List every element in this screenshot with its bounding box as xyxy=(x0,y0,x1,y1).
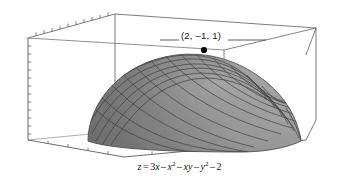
equation-caption: z=3x–x2–xy–y2–2 xyxy=(0,160,359,173)
plot-canvas xyxy=(0,0,359,185)
box-edge-right-wall-top xyxy=(224,28,316,50)
box-edge-top-right xyxy=(306,28,316,55)
maximum-point-marker xyxy=(201,47,207,53)
surface-dome xyxy=(86,50,301,155)
box-edge-floor-right-back xyxy=(306,120,316,140)
equation-term1-variable: x xyxy=(155,161,159,172)
box-edge-top-back xyxy=(115,14,316,28)
equation-equals: = xyxy=(142,161,151,172)
box-edge-top-back-left xyxy=(28,14,115,38)
axis-ticks-top-back-left xyxy=(36,13,108,36)
axis-ticks-z xyxy=(28,46,31,134)
surface-plot-figure: (2, –1, 1) z=3x–x2–xy–y2–2 xyxy=(0,0,359,185)
equation-operator-2: – xyxy=(176,161,184,172)
equation-lhs: z xyxy=(138,161,142,172)
equation-operator-1: – xyxy=(160,161,168,172)
point-label: (2, –1, 1) xyxy=(181,30,221,42)
equation-term5-constant: 2 xyxy=(216,161,221,172)
